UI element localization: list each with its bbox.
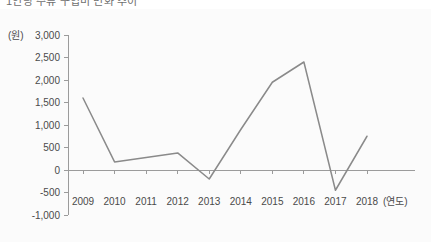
plot-area: 3,0002,5002,0001,5001,0005000-500-1,000 … <box>0 9 431 242</box>
x-tick-label: 2018 <box>356 196 379 207</box>
y-tick-label: -1,000 <box>32 210 61 221</box>
y-tick-label: 2,000 <box>35 75 60 86</box>
y-tick-label: 1,000 <box>35 120 60 131</box>
x-tick-label: 2012 <box>167 196 190 207</box>
x-tick-label: 2013 <box>198 196 221 207</box>
x-tick-label: 2014 <box>230 196 253 207</box>
chart-figure: 1인당 주류 구입비 변화 추이 3,0002,5002,0001,5001,0… <box>0 0 431 242</box>
y-axis-tick-labels: 3,0002,5002,0001,5001,0005000-500-1,000 <box>32 30 61 221</box>
x-tick-label: 2015 <box>261 196 284 207</box>
y-tick-label: 2,500 <box>35 52 60 63</box>
x-axis-tick-labels: 2009201020112012201320142015201620172018 <box>72 196 379 207</box>
x-tick-label: 2010 <box>103 196 126 207</box>
x-axis-unit-label: (연도) <box>383 196 408 207</box>
figure-caption: 1인당 주류 구입비 변화 추이 <box>6 0 138 8</box>
data-series-line <box>83 62 367 190</box>
line-chart: 3,0002,5002,0001,5001,0005000-500-1,000 … <box>0 9 431 242</box>
x-tick-label: 2009 <box>72 196 95 207</box>
figure-caption-strip: 1인당 주류 구입비 변화 추이 <box>0 0 431 9</box>
x-axis-ticks <box>83 170 367 174</box>
y-tick-label: -500 <box>40 187 60 198</box>
x-tick-label: 2017 <box>324 196 347 207</box>
y-axis-ticks <box>64 35 68 215</box>
y-tick-label: 500 <box>43 142 60 153</box>
y-tick-label: 1,500 <box>35 97 60 108</box>
y-tick-label: 3,000 <box>35 30 60 41</box>
x-tick-label: 2016 <box>293 196 316 207</box>
x-tick-label: 2011 <box>135 196 157 207</box>
y-axis-unit-label: (원) <box>8 30 24 41</box>
y-tick-label: 0 <box>54 165 60 176</box>
